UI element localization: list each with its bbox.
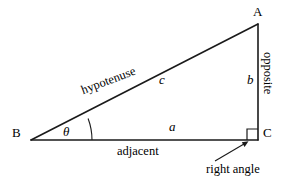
hypotenuse-variable-label: c (159, 73, 165, 86)
adjacent-label: adjacent (117, 145, 159, 158)
right-angle-annotation: right angle (206, 163, 260, 176)
triangle-diagram: A B C hypotenuse c opposite b adjacent a… (0, 0, 288, 188)
hypotenuse-line (31, 24, 258, 140)
opposite-variable-label: b (247, 73, 254, 86)
vertex-label-c: C (263, 126, 272, 139)
adjacent-variable-label: a (169, 120, 176, 133)
right-angle-marker (247, 129, 258, 140)
theta-arc (88, 119, 92, 141)
theta-angle-label: θ (63, 125, 69, 138)
vertex-label-a: A (253, 5, 262, 18)
vertex-label-b: B (12, 126, 21, 139)
right-angle-pointer-line (215, 143, 247, 162)
triangle-geometry-svg (0, 0, 288, 188)
opposite-label: opposite (262, 52, 275, 94)
